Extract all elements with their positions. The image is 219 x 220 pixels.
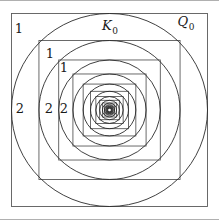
region-label-2-third: 2 [60, 102, 68, 115]
region-label-1-third: 1 [60, 61, 68, 74]
nested-circles-group [12, 14, 208, 207]
region-label-1-outer: 1 [15, 22, 23, 35]
nested-circle-4 [83, 84, 136, 136]
nested-circle-12 [108, 108, 112, 112]
set-label-q0-base: Q [178, 14, 189, 29]
set-label-q0: Q0 [178, 15, 195, 32]
set-label-k0-base: K [102, 18, 112, 33]
nested-square-2 [59, 60, 161, 160]
region-label-2-second: 2 [45, 102, 53, 115]
nested-circle-0 [12, 14, 208, 207]
nested-circle-3 [73, 74, 146, 146]
nested-square-0 [12, 14, 208, 207]
nested-circle-2 [59, 60, 161, 160]
set-label-k0-subscript: 0 [112, 25, 118, 35]
nested-squares-circles-figure: 1 1 1 2 2 2 K0 Q0 [0, 0, 219, 220]
set-label-k0: K0 [102, 19, 118, 36]
region-label-1-second: 1 [46, 47, 54, 60]
set-label-q0-subscript: 0 [189, 21, 195, 31]
nested-squares-group [12, 14, 208, 207]
region-label-2-outer: 2 [16, 102, 24, 115]
